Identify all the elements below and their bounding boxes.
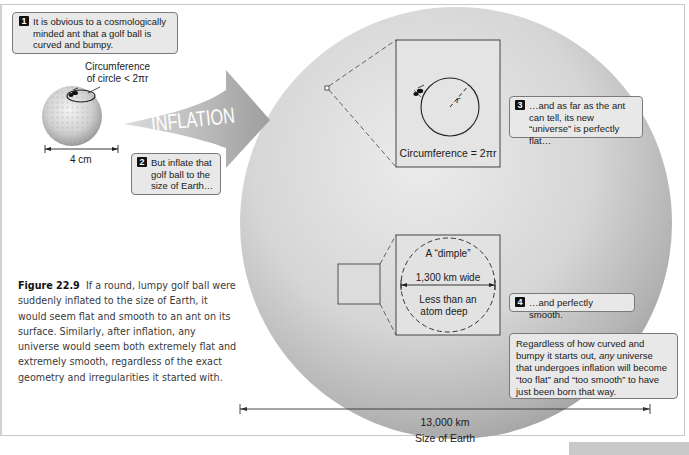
callout-number-badge: 2 — [137, 157, 147, 167]
callout-number-badge: 1 — [19, 16, 29, 26]
callout-4: 4 …and perfectly smooth. — [509, 293, 635, 312]
dimple-depth-label-line2: atom deep — [420, 306, 468, 317]
circ-label-line1: Circumference — [85, 61, 150, 73]
dimple-title: A “dimple” — [425, 248, 470, 259]
callout-1: 1 It is obvious to a cosmologically mind… — [12, 12, 178, 54]
summary-text-emphasis: any — [599, 350, 614, 361]
callout-3: 3 …and as far as the ant can tell, its n… — [509, 96, 643, 138]
circ-label-line2: of circle < 2πr — [85, 73, 150, 85]
earth-size-value: 13,000 km — [420, 416, 469, 428]
callout-text: But inflate that golf ball to the size o… — [151, 157, 215, 192]
golf-ball-size-label: 4 cm — [70, 154, 92, 166]
callout-number-badge: 3 — [515, 100, 525, 110]
callout-text: …and as far as the ant can tell, its new… — [529, 100, 637, 146]
dimple-depth-label-line1: Less than an — [419, 294, 476, 305]
flat-inset-radius-label: r — [456, 93, 461, 105]
dimple-region-marker — [338, 264, 380, 304]
callout-number-badge: 4 — [515, 297, 525, 307]
callout-text: …and perfectly smooth. — [529, 297, 629, 320]
figure-caption: Figure 22.9 If a round, lumpy golf ball … — [18, 278, 238, 385]
earth-size-label: Size of Earth — [415, 432, 475, 444]
callout-2: 2 But inflate that golf ball to the size… — [131, 153, 221, 195]
figure-caption-text: If a round, lumpy golf ball were suddenl… — [18, 280, 236, 383]
circ-label-leader — [88, 87, 100, 93]
figure-number: Figure 22.9 — [18, 280, 80, 291]
summary-box: Regardless of how curved and bumpy it st… — [509, 333, 678, 399]
flat-inset-circumference-label: Circumference = 2πr — [400, 147, 497, 159]
golf-ball-circumference-label: Circumference of circle < 2πr — [85, 61, 150, 85]
dimple-width-label: 1,300 km wide — [416, 272, 481, 283]
golf-ball-size-dimension — [45, 145, 118, 153]
flat-region-marker — [325, 86, 329, 90]
callout-text: It is obvious to a cosmologically minded… — [33, 16, 171, 51]
